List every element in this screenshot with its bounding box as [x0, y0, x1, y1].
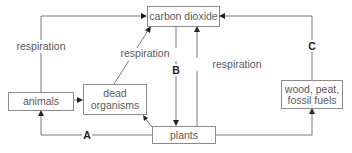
- label-dead-respiration: respiration: [120, 47, 169, 59]
- label-a: A: [83, 129, 91, 141]
- label-b: B: [172, 64, 180, 76]
- label-carbon-dioxide: carbon dioxide: [149, 10, 217, 22]
- label-animals-respiration: respiration: [16, 40, 65, 52]
- label-fossil-line2: fossil fuels: [287, 94, 336, 106]
- edge-plants-to-fossil: [215, 112, 312, 135]
- edge-plants-to-animals: [41, 114, 152, 135]
- arrowhead-dead-left: [77, 97, 83, 103]
- label-dead-line2: organisms: [91, 99, 139, 111]
- label-dead-line1: dead: [103, 87, 127, 99]
- arrowhead-dead-co2: [145, 26, 151, 33]
- carbon-cycle-diagram: carbon dioxide animals dead organisms pl…: [0, 0, 352, 153]
- arrowhead-plants-top: [173, 120, 179, 126]
- arrowhead-co2-left: [141, 13, 147, 19]
- label-plants-respiration: respiration: [212, 58, 261, 70]
- label-animals: animals: [23, 95, 59, 107]
- label-plants: plants: [170, 129, 198, 141]
- label-c: C: [308, 40, 316, 52]
